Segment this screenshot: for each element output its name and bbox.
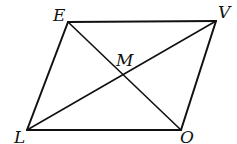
vertex-label-v: V	[218, 2, 232, 22]
intersection-label-m: M	[115, 50, 134, 70]
diagonal-eo	[68, 22, 181, 130]
vertex-label-e: E	[52, 5, 66, 25]
vertex-label-l: L	[13, 127, 25, 144]
diagonal-lv	[27, 21, 216, 130]
edge-le	[27, 22, 68, 130]
parallelogram-diagram: E V M L O	[0, 0, 237, 144]
vertex-label-o: O	[180, 127, 194, 144]
edge-ev	[68, 21, 216, 22]
